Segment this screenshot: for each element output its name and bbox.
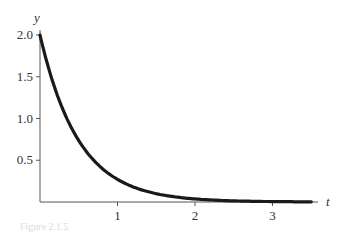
axes	[40, 30, 318, 202]
x-tick-label: 3	[269, 208, 276, 223]
x-tick-label: 2	[192, 208, 199, 223]
chart: 1230.51.01.52.0 y t	[0, 0, 340, 233]
figure-caption: Figure 2.1.5	[20, 221, 69, 232]
x-axis-label: t	[326, 194, 330, 209]
x-tick-label: 1	[114, 208, 121, 223]
decay-curve	[40, 35, 311, 202]
y-tick-label: 2.0	[17, 27, 33, 42]
ticks: 1230.51.01.52.0	[17, 27, 276, 223]
y-tick-label: 1.5	[17, 69, 33, 84]
y-axis-label: y	[32, 10, 40, 25]
y-tick-label: 0.5	[17, 152, 33, 167]
y-tick-label: 1.0	[17, 111, 33, 126]
